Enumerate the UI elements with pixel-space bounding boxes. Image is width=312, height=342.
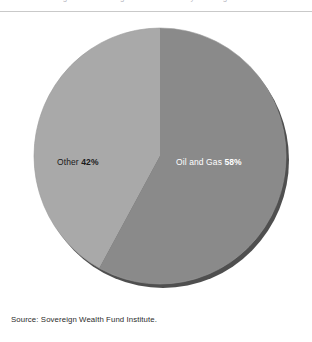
pie-label-oil-and-gas-name: Oil and Gas	[176, 157, 222, 167]
pie-chart-svg	[0, 12, 312, 309]
pie-label-other-value: 42%	[81, 157, 98, 167]
pie-chart: Other 42% Oil and Gas 58%	[0, 12, 312, 309]
figure-container: Figure 3. Sovereign Wealth Funds by Fund…	[0, 0, 312, 342]
pie-label-oil-and-gas-value: 58%	[224, 157, 241, 167]
clipped-figure-heading: Figure 3. Sovereign Wealth Funds by Fund…	[0, 0, 312, 6]
pie-label-other: Other 42%	[57, 158, 99, 167]
source-note: Source: Sovereign Wealth Fund Institute.	[11, 315, 157, 324]
pie-label-other-name: Other	[57, 157, 79, 167]
pie-label-oil-and-gas: Oil and Gas 58%	[176, 158, 242, 167]
